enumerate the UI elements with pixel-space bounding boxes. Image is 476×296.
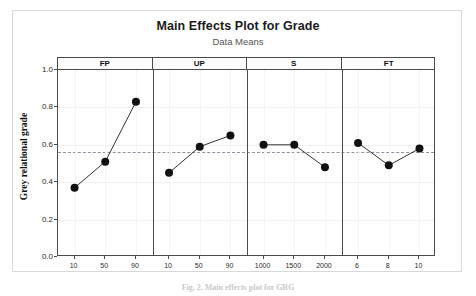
x-tick-mark (229, 256, 230, 259)
y-tick-label: 0.4 (29, 177, 53, 186)
chart-title: Main Effects Plot for Grade (13, 19, 463, 33)
gridline-horizontal (58, 145, 434, 146)
x-tick-label: 10 (151, 262, 185, 269)
gridline-vertical (389, 70, 390, 255)
x-tick-label: 50 (87, 262, 121, 269)
y-tick-mark (54, 106, 57, 107)
x-tick-mark (74, 256, 75, 259)
figure-caption: Fig. 2. Main effects plot for GRG (0, 283, 476, 292)
x-tick-label: 90 (118, 262, 152, 269)
y-tick-label: 0.2 (29, 214, 53, 223)
gridline-vertical (169, 70, 170, 255)
x-tick-mark (388, 256, 389, 259)
gridline-vertical (294, 70, 295, 255)
x-tick-mark (199, 256, 200, 259)
gridline-vertical (75, 70, 76, 255)
x-tick-mark (357, 256, 358, 259)
x-tick-mark (168, 256, 169, 259)
x-tick-mark (263, 256, 264, 259)
x-tick-label: 50 (182, 262, 216, 269)
series-up (58, 70, 434, 255)
y-tick-label: 0.6 (29, 139, 53, 148)
y-tick-mark (54, 219, 57, 220)
x-tick-label: 1500 (276, 262, 310, 269)
x-tick-mark (418, 256, 419, 259)
gridline-horizontal (58, 107, 434, 108)
y-tick-label: 1.0 (29, 65, 53, 74)
y-axis-title: Grey relational grade (19, 57, 33, 256)
y-tick-mark (54, 256, 57, 257)
gridline-vertical (200, 70, 201, 255)
x-tick-label: 6 (340, 262, 374, 269)
gridline-vertical (325, 70, 326, 255)
y-tick-mark (54, 144, 57, 145)
series-ft (58, 70, 434, 255)
series-s (58, 70, 434, 255)
gridline-vertical (264, 70, 265, 255)
x-tick-label: 2000 (307, 262, 341, 269)
overall-mean-reference-line (58, 152, 434, 153)
panel-divider (247, 70, 248, 255)
x-tick-mark (104, 256, 105, 259)
gridline-vertical (105, 70, 106, 255)
gridline-vertical (136, 70, 137, 255)
x-tick-mark (293, 256, 294, 259)
series-fp (58, 70, 434, 255)
panel-divider (342, 70, 343, 255)
y-tick-label: 0.8 (29, 102, 53, 111)
gridline-vertical (358, 70, 359, 255)
x-tick-label: 10 (401, 262, 435, 269)
panel-header-band: FPUPSFT (57, 57, 435, 69)
x-tick-mark (135, 256, 136, 259)
x-tick-label: 8 (371, 262, 405, 269)
chart-subtitle: Data Means (13, 36, 463, 47)
panel-divider (153, 70, 154, 255)
y-tick-mark (54, 69, 57, 70)
gridline-horizontal (58, 182, 434, 183)
y-tick-mark (54, 181, 57, 182)
x-tick-mark (324, 256, 325, 259)
figure-frame: Main Effects Plot for Grade Data Means G… (12, 10, 462, 272)
gridline-vertical (419, 70, 420, 255)
plot-area: FPUPSFT 0.00.20.40.60.81.010509010509010… (57, 57, 435, 256)
plot-box (57, 69, 435, 256)
gridline-horizontal (58, 220, 434, 221)
x-tick-label: 1000 (246, 262, 280, 269)
x-tick-label: 10 (57, 262, 91, 269)
x-tick-label: 90 (212, 262, 246, 269)
gridline-vertical (230, 70, 231, 255)
y-tick-label: 0.0 (29, 252, 53, 261)
